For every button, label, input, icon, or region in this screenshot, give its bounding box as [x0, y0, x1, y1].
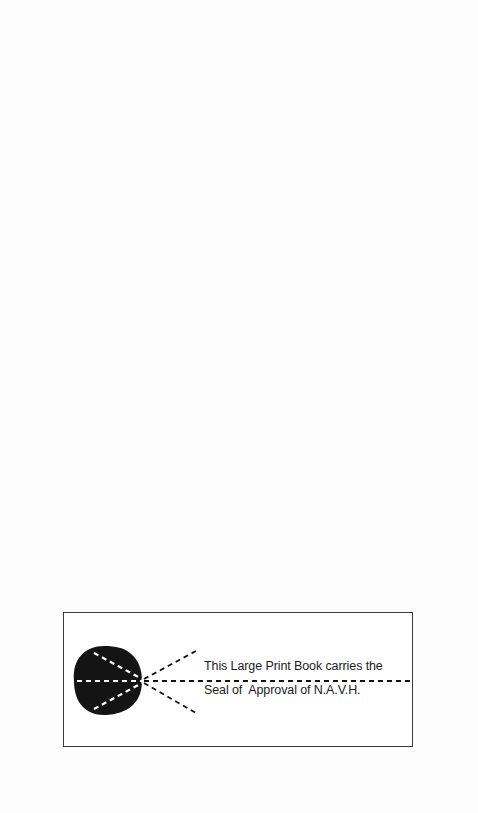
- seal-text-line2: Seal of Approval of N.A.V.H.: [204, 683, 360, 697]
- navh-seal-box: This Large Print Book carries the Seal o…: [63, 612, 413, 747]
- book-page: This Large Print Book carries the Seal o…: [0, 0, 478, 813]
- eye-icon: [64, 613, 414, 748]
- seal-text-line1: This Large Print Book carries the: [204, 659, 383, 673]
